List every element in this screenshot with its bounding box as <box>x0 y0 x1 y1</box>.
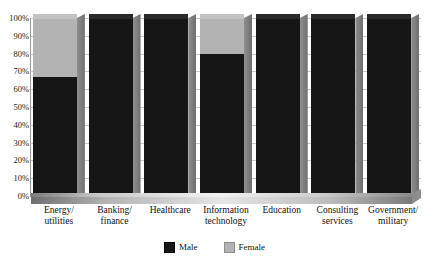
y-axis-labels: 100%90%80%70%60%50%40%30%20%10%0% <box>0 0 29 214</box>
y-axis-tick: 70% <box>1 67 29 76</box>
bar-side-face <box>188 14 196 196</box>
y-axis-tick: 20% <box>1 156 29 165</box>
y-axis-tick: 10% <box>1 174 29 183</box>
bar-column[interactable] <box>200 18 244 196</box>
y-axis-tick: 80% <box>1 50 29 59</box>
bar-top-face <box>200 14 244 19</box>
bar-segment-male[interactable] <box>311 18 355 196</box>
chart-title-remnant <box>0 0 429 8</box>
y-axis-tick: 50% <box>1 103 29 112</box>
bar-top-face <box>89 14 133 19</box>
bar-segment-male[interactable] <box>33 77 77 196</box>
y-axis-tick: 0% <box>1 192 29 201</box>
bar-top-face <box>311 14 355 19</box>
bar-top-face <box>144 14 188 19</box>
bar-column[interactable] <box>256 18 300 196</box>
bar-top-face <box>33 14 77 19</box>
chart-legend: Male Female <box>0 240 429 254</box>
bar-segment-male[interactable] <box>144 18 188 196</box>
bar-column[interactable] <box>311 18 355 196</box>
chart-floor <box>31 193 421 204</box>
x-axis-category-label: Government/military <box>358 205 428 227</box>
bar-segment-male[interactable] <box>256 18 300 196</box>
legend-label-female: Female <box>239 243 266 252</box>
bar-side-face <box>77 14 85 196</box>
legend-item-male[interactable]: Male <box>164 242 198 253</box>
bar-side-face <box>355 14 363 196</box>
bar-segment-female[interactable] <box>33 18 77 77</box>
male-swatch-icon <box>164 242 175 253</box>
bar-top-face <box>367 14 411 19</box>
female-swatch-icon <box>224 242 235 253</box>
bar-segment-male[interactable] <box>89 18 133 196</box>
category-label-line1: Government/ <box>358 205 428 216</box>
bar-column[interactable] <box>33 18 77 196</box>
plot-area <box>31 18 421 196</box>
bar-side-face <box>300 14 308 196</box>
bar-side-face <box>244 14 252 196</box>
x-axis-labels: Energy/utilitiesBanking/financeHealthcar… <box>0 205 429 233</box>
bar-column[interactable] <box>89 18 133 196</box>
y-axis-tick: 100% <box>1 14 29 23</box>
bar-side-face <box>411 14 419 196</box>
y-axis-tick: 30% <box>1 139 29 148</box>
category-label-line2: military <box>358 216 428 227</box>
bar-column[interactable] <box>367 18 411 196</box>
y-axis-tick: 90% <box>1 32 29 41</box>
category-label-line2: finance <box>80 216 150 227</box>
floor-front-face <box>31 197 412 204</box>
bar-column[interactable] <box>144 18 188 196</box>
bar-segment-male[interactable] <box>367 18 411 196</box>
legend-label-male: Male <box>179 243 198 252</box>
category-label-line2: technology <box>191 216 261 227</box>
bar-segment-male[interactable] <box>200 54 244 196</box>
bar-top-face <box>256 14 300 19</box>
y-axis-tick: 40% <box>1 121 29 130</box>
bar-segment-female[interactable] <box>200 18 244 54</box>
bar-side-face <box>133 14 141 196</box>
legend-item-female[interactable]: Female <box>224 242 266 253</box>
y-axis-tick: 60% <box>1 85 29 94</box>
stacked-bar-chart: 100%90%80%70%60%50%40%30%20%10%0% Energy… <box>0 0 429 260</box>
